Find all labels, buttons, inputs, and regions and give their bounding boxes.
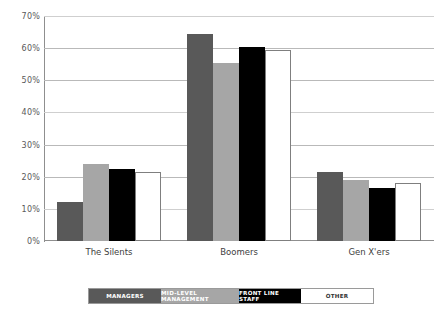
y-tick-label: 10% (6, 204, 40, 213)
x-tick-label-boomers: Boomers (174, 247, 304, 257)
bar-mid-level-management (213, 63, 239, 241)
bar-front-line-staff (109, 169, 135, 241)
bar-mid-level-management (343, 180, 369, 241)
bar-managers (187, 34, 213, 241)
y-axis-labels: 70% 60% 50% 40% 30% 20% 10% 0% (0, 16, 40, 241)
y-tick-label: 60% (6, 44, 40, 53)
legend-item-other[interactable]: OTHER (301, 289, 373, 303)
bar-managers (317, 172, 343, 241)
bar-front-line-staff (239, 47, 265, 241)
bar-groups (44, 16, 434, 241)
y-tick-label: 0% (6, 237, 40, 246)
bar-mid-level-management (83, 164, 109, 241)
y-tick-label: 70% (6, 12, 40, 21)
bar-group-the-silents (44, 16, 174, 241)
legend-item-managers[interactable]: MANAGERS (89, 289, 161, 303)
y-tick-label: 40% (6, 108, 40, 117)
y-tick-label: 50% (6, 76, 40, 85)
plot-area (44, 16, 434, 241)
chart-legend: MANAGERS MID-LEVEL MANAGEMENT FRONT LINE… (88, 288, 374, 304)
x-axis-labels: The Silents Boomers Gen X'ers (44, 247, 434, 257)
legend-item-mid-level-management[interactable]: MID-LEVEL MANAGEMENT (161, 289, 239, 303)
bar-other (265, 50, 291, 241)
bar-group-gen-xers (304, 16, 434, 241)
bar-managers (57, 202, 83, 241)
y-tick-label: 30% (6, 140, 40, 149)
chart-page: 70% 60% 50% 40% 30% 20% 10% 0% (0, 0, 442, 317)
bar-other (135, 172, 161, 241)
bar-group-boomers (174, 16, 304, 241)
bar-front-line-staff (369, 188, 395, 241)
x-tick-label-the-silents: The Silents (44, 247, 174, 257)
x-tick-label-gen-xers: Gen X'ers (304, 247, 434, 257)
bar-other (395, 183, 421, 241)
legend-item-front-line-staff[interactable]: FRONT LINE STAFF (239, 289, 301, 303)
y-tick-label: 20% (6, 172, 40, 181)
